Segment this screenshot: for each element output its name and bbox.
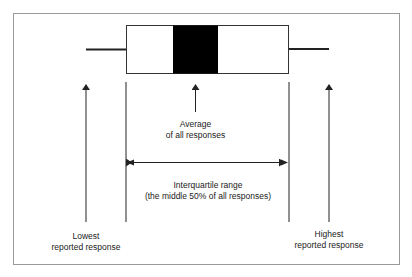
average-marker xyxy=(173,26,218,74)
average-label: Average of all responses xyxy=(150,119,241,141)
lowest-label-line2: reported response xyxy=(36,242,136,253)
highest-label-line1: Highest xyxy=(279,229,379,240)
iqr-label-line1: Interquartile range xyxy=(130,180,286,191)
average-label-line1: Average xyxy=(150,119,241,130)
iqr-label: Interquartile range (the middle 50% of a… xyxy=(130,180,286,202)
average-label-line2: of all responses xyxy=(150,130,241,141)
highest-label-line2: reported response xyxy=(279,240,379,251)
lowest-label: Lowest reported response xyxy=(36,231,136,253)
iqr-label-line2: (the middle 50% of all responses) xyxy=(130,191,286,202)
highest-label: Highest reported response xyxy=(279,229,379,251)
lowest-label-line1: Lowest xyxy=(36,231,136,242)
